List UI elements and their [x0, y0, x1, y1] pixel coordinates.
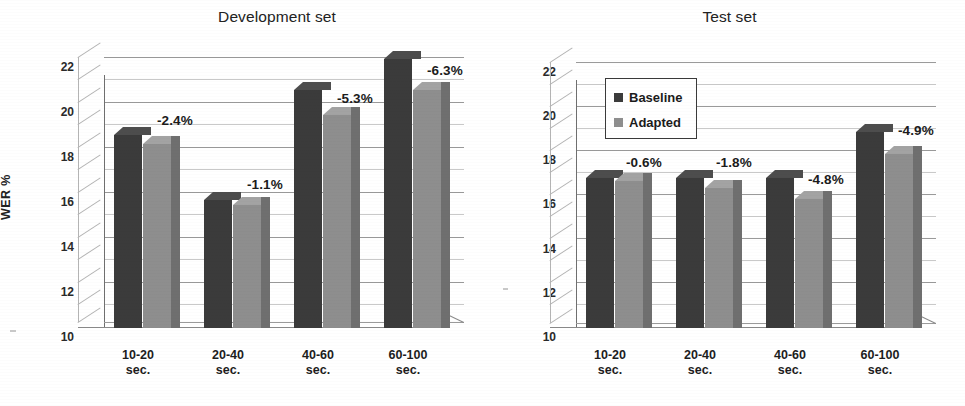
x-tick-label-line2: sec. [366, 363, 450, 378]
scan-speck [10, 330, 16, 332]
chart-panel-test-set: Test set 22 20 18 16 14 12 10 [482, 0, 965, 406]
bar-baseline [294, 90, 322, 328]
x-tick-label-line1: 60-100 [366, 348, 450, 363]
bar-baseline [384, 59, 412, 328]
x-tick-label: 20-40 sec. [658, 348, 742, 378]
x-tick-label: 20-40 sec. [186, 348, 270, 378]
x-tick-label: 60-100 sec. [366, 348, 450, 378]
y-axis-ticks-right: 22 20 18 16 14 12 10 [482, 0, 556, 406]
bar-baseline [676, 178, 704, 328]
y-tick: 22 [40, 60, 74, 74]
x-tick-label-line2: sec. [186, 363, 270, 378]
data-label: -1.1% [247, 177, 283, 192]
x-tick-label-line2: sec. [658, 363, 742, 378]
y-tick: 18 [40, 150, 74, 164]
bar-adapted [143, 144, 171, 328]
x-tick-label-line1: 10-20 [96, 348, 180, 363]
legend-swatch-baseline-icon [614, 93, 623, 102]
x-tick-label-line1: 20-40 [186, 348, 270, 363]
bar-series-container: -2.4% -1.1% [104, 57, 464, 328]
left-wall [78, 57, 105, 340]
x-tick-label-line1: 60-100 [838, 348, 922, 363]
y-tick: 12 [40, 285, 74, 299]
y-axis-back-line [78, 57, 79, 322]
legend-item-baseline: Baseline [614, 85, 696, 110]
bar-adapted [233, 205, 261, 328]
legend-swatch-adapted-icon [614, 118, 623, 127]
x-tick-label: 60-100 sec. [838, 348, 922, 378]
bar-adapted [615, 181, 643, 328]
left-wall [550, 62, 577, 340]
bar-baseline [204, 200, 232, 328]
legend-item-adapted: Adapted [614, 110, 696, 135]
x-tick-label-line2: sec. [838, 363, 922, 378]
x-tick-label-line2: sec. [276, 363, 360, 378]
y-tick: 20 [40, 105, 74, 119]
data-label: -4.9% [898, 123, 934, 138]
x-tick-label: 40-60 sec. [276, 348, 360, 378]
data-label: -1.8% [716, 155, 752, 170]
bar-adapted [885, 154, 913, 328]
x-tick-label-line2: sec. [748, 363, 832, 378]
x-tick-label-line1: 40-60 [276, 348, 360, 363]
scan-speck [503, 288, 508, 290]
bar-adapted [705, 188, 733, 328]
bar-adapted [795, 199, 823, 328]
x-tick-label-line1: 40-60 [748, 348, 832, 363]
bar-group: -2.4% [110, 57, 200, 328]
legend: Baseline Adapted [605, 78, 697, 139]
x-tick-label: 10-20 sec. [568, 348, 652, 378]
bar-group: -4.9% [852, 62, 942, 328]
bar-baseline [856, 132, 884, 328]
legend-label-adapted: Adapted [629, 115, 681, 130]
bar-group: -1.1% [200, 57, 290, 328]
bar-baseline [586, 178, 614, 328]
y-tick: 14 [40, 240, 74, 254]
x-axis-labels-left: 10-20 sec. 20-40 sec. 40-60 sec. 60-100 … [104, 348, 490, 396]
plot-area-development-set: -2.4% -1.1% [78, 57, 464, 340]
grouped-bar-chart-figure: Development set WER % 22 20 18 16 14 12 … [0, 0, 965, 406]
bar-group: -4.8% [762, 62, 852, 328]
x-tick-label-line1: 10-20 [568, 348, 652, 363]
data-label: -6.3% [427, 63, 463, 78]
x-tick-label-line2: sec. [568, 363, 652, 378]
chart-panel-development-set: Development set WER % 22 20 18 16 14 12 … [0, 0, 482, 406]
data-label: -4.8% [808, 172, 844, 187]
y-tick: 10 [40, 330, 74, 344]
panel-title-development-set: Development set [0, 8, 518, 26]
bar-adapted [413, 90, 441, 328]
data-label: -5.3% [337, 91, 373, 106]
bar-group: -6.3% [380, 57, 470, 328]
x-tick-label-line1: 20-40 [658, 348, 742, 363]
x-tick-label-line2: sec. [96, 363, 180, 378]
x-tick-label: 10-20 sec. [96, 348, 180, 378]
bar-adapted [323, 115, 351, 328]
x-tick-label: 40-60 sec. [748, 348, 832, 378]
bar-baseline [766, 178, 794, 328]
y-axis-ticks-left: 22 20 18 16 14 12 10 [0, 0, 74, 406]
y-tick: 16 [40, 195, 74, 209]
legend-label-baseline: Baseline [629, 90, 682, 105]
x-axis-labels-right: 10-20 sec. 20-40 sec. 40-60 sec. 60-100 … [576, 348, 962, 396]
data-label: -2.4% [157, 113, 193, 128]
data-label: -0.6% [626, 155, 662, 170]
y-axis-back-line [550, 62, 551, 323]
bar-group: -5.3% [290, 57, 380, 328]
bar-baseline [114, 135, 142, 328]
